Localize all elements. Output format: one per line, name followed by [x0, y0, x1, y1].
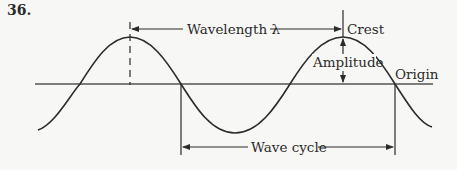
sine-wave: [38, 37, 432, 133]
crest-label: Crest: [347, 21, 385, 37]
wave-cycle-label: Wave cycle: [251, 139, 327, 155]
question-number: 36.: [7, 2, 31, 18]
wavelength-label: Wavelength λ: [187, 21, 280, 37]
origin-label: Origin: [395, 66, 439, 82]
wave-diagram: 36. Wavelength λ Crest Amplitude Origin: [0, 0, 457, 170]
amplitude-label: Amplitude: [312, 54, 384, 70]
wave-figure: Wavelength λ Crest Amplitude Origin Wave…: [0, 0, 457, 170]
